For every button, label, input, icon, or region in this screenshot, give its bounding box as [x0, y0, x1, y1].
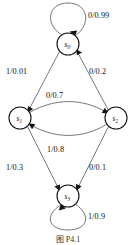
edge-label-s1-s3: 1/0.3 — [6, 163, 23, 172]
edge-path-s2-s0 — [77, 52, 108, 111]
node-s2[interactable]: s2 — [105, 107, 127, 129]
state-diagram: s0 s1 s2 s3 0/0.99 1/0.01 0/0.2 0/0.7 — [0, 0, 136, 232]
edge-s2-s1-lower — [28, 123, 106, 135]
edge-label-s0-self: 0/0.99 — [88, 11, 109, 20]
edge-s2-s0 — [76, 49, 109, 110]
edge-label-s2-s1: 1/0.8 — [47, 145, 64, 154]
node-s0[interactable]: s0 — [57, 33, 79, 55]
edge-s0-s1 — [27, 52, 59, 113]
edge-s2-s3 — [76, 127, 109, 191]
edge-path-s2-s1 — [31, 125, 107, 136]
edge-s0-s0 — [51, 3, 86, 36]
edge-label-s0-s1: 1/0.01 — [6, 67, 27, 76]
edge-path-s0-s1 — [29, 52, 60, 111]
edge-label-s2-s0: 0/0.2 — [89, 67, 106, 76]
edge-path-s0-self — [51, 3, 86, 36]
edge-label-s1-s2: 0/0.7 — [46, 91, 63, 100]
edge-label-s3-self: 1/0.9 — [88, 212, 105, 221]
figure-caption: 图 P4.1 — [0, 232, 136, 245]
edge-path-s3-self — [50, 204, 85, 230]
edge-s1-s3 — [28, 127, 61, 191]
edge-path-s2-s3 — [78, 127, 109, 189]
node-s1[interactable]: s1 — [9, 107, 31, 129]
edge-path-s1-s2 — [30, 102, 107, 113]
edge-s3-s3 — [50, 204, 85, 230]
edge-label-s2-s3: 0/0.1 — [89, 163, 106, 172]
figure-container: s0 s1 s2 s3 0/0.99 1/0.01 0/0.2 0/0.7 — [0, 0, 136, 245]
node-s3[interactable]: s3 — [57, 185, 79, 207]
edge-s1-s2-upper — [30, 102, 109, 114]
edge-path-s1-s3 — [28, 127, 59, 189]
